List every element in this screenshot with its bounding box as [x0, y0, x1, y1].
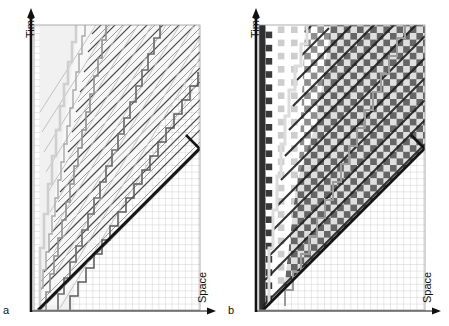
panel-a: Time Space a	[0, 0, 224, 326]
panel-a-x-axis-label: Space	[196, 272, 208, 303]
panel-b-space-axis-arrow	[432, 308, 441, 315]
panel-a-y-axis-label: Time	[24, 14, 36, 38]
figure-container: Time Space a	[0, 0, 449, 326]
panel-a-letter: a	[3, 305, 9, 316]
panel-b-letter: b	[228, 305, 234, 316]
panel-b-y-axis-label: Time	[249, 14, 261, 38]
panel-a-space-axis-arrow	[207, 308, 216, 315]
panel-b-plot	[225, 0, 449, 326]
panel-b: Time Space b	[225, 0, 449, 326]
panel-a-plot	[0, 0, 224, 326]
panel-b-x-axis-label: Space	[421, 272, 433, 303]
panel-b-left-dark-column	[259, 25, 266, 310]
